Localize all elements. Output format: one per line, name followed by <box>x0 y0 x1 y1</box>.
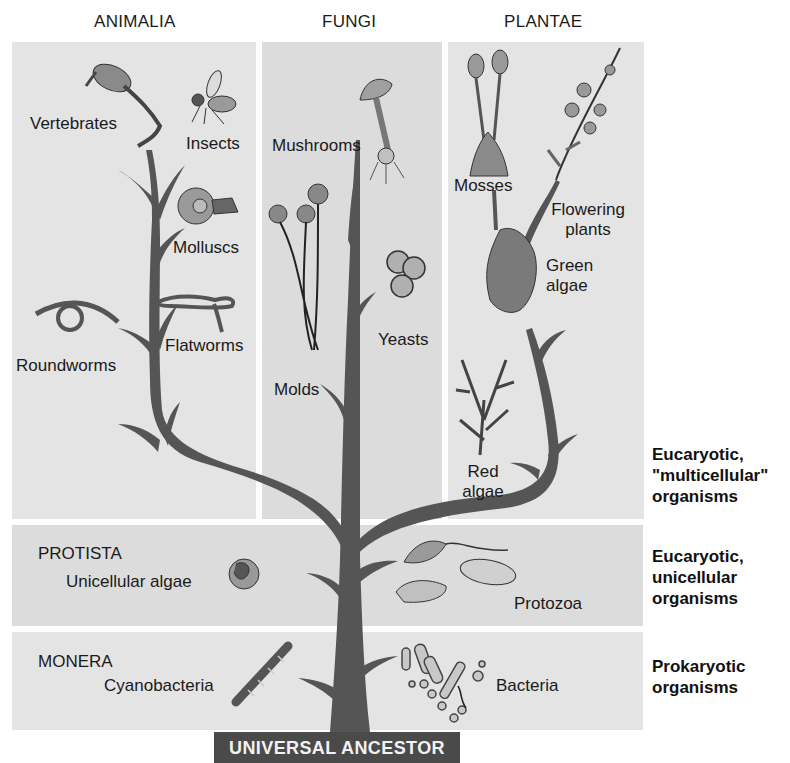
stem-mosses <box>492 190 498 230</box>
branch-plantae <box>352 328 559 556</box>
thorn <box>510 463 540 480</box>
label-insects: Insects <box>186 134 240 154</box>
label-roundworms: Roundworms <box>16 356 116 376</box>
label-red-line1: Red <box>458 462 508 482</box>
level-prokaryotic: Prokaryotic organisms <box>652 656 746 698</box>
label-green-line1: Green <box>546 256 593 276</box>
thorn <box>360 656 398 678</box>
universal-ancestor-box: UNIVERSAL ANCESTOR <box>214 732 460 763</box>
level-prokaryotic-line1: Prokaryotic <box>652 656 746 677</box>
label-flowering-line2: plants <box>548 220 628 240</box>
thorn <box>536 330 566 366</box>
bacteria-icon <box>402 643 485 722</box>
level-unicellular-line2: unicellular <box>652 567 744 588</box>
label-green-algae: Green algae <box>546 256 593 296</box>
label-mushrooms: Mushrooms <box>272 136 361 156</box>
level-multicellular-line3: organisms <box>652 486 768 507</box>
label-yeasts: Yeasts <box>378 330 428 350</box>
thorn <box>358 561 398 582</box>
label-green-line2: algae <box>546 276 593 296</box>
level-multicellular-line2: "multicellular" <box>652 465 768 486</box>
mold-icon <box>269 184 328 350</box>
kingdom-title-plantae: PLANTAE <box>504 12 582 32</box>
label-molluscs: Molluscs <box>173 238 239 258</box>
thorn <box>298 678 338 702</box>
insect-icon <box>192 69 236 124</box>
flowering-plant-icon <box>548 48 620 180</box>
red-algae-icon <box>456 360 514 455</box>
protozoa-icon <box>396 541 518 602</box>
thorn <box>118 424 160 452</box>
label-flatworms: Flatworms <box>165 336 243 356</box>
kingdom-title-protista: PROTISTA <box>38 544 122 564</box>
thorn <box>306 573 342 598</box>
mushroom-icon <box>360 79 404 184</box>
label-vertebrates: Vertebrates <box>30 114 117 134</box>
mollusc-icon <box>178 188 238 224</box>
flatworm-icon <box>158 297 234 333</box>
level-multicellular-line1: Eucaryotic, <box>652 444 768 465</box>
label-molds: Molds <box>274 380 319 400</box>
kingdom-title-animalia: ANIMALIA <box>94 12 176 32</box>
label-mosses: Mosses <box>454 176 513 196</box>
cyanobacteria-icon <box>236 646 288 702</box>
level-prokaryotic-line2: organisms <box>652 677 746 698</box>
level-multicellular: Eucaryotic, "multicellular" organisms <box>652 444 768 507</box>
label-bacteria: Bacteria <box>496 676 558 696</box>
unicellular-alga-icon <box>229 559 259 589</box>
label-cyanobacteria: Cyanobacteria <box>104 676 214 696</box>
tree-of-life-diagram <box>0 0 790 763</box>
label-flowering-line1: Flowering <box>548 200 628 220</box>
kingdom-title-fungi: FUNGI <box>322 12 376 32</box>
label-red-line2: algae <box>458 482 508 502</box>
moss-icon <box>468 50 508 176</box>
yeast-icon <box>387 251 425 297</box>
level-unicellular-line3: organisms <box>652 588 744 609</box>
thorn <box>320 384 346 420</box>
level-unicellular: Eucaryotic, unicellular organisms <box>652 546 744 609</box>
label-flowering-plants: Flowering plants <box>548 200 628 240</box>
level-unicellular-line1: Eucaryotic, <box>652 546 744 567</box>
roundworm-icon <box>36 303 118 330</box>
label-protozoa: Protozoa <box>514 594 582 614</box>
label-unicellular-algae: Unicellular algae <box>66 572 192 592</box>
kingdom-title-monera: MONERA <box>38 652 113 672</box>
label-red-algae: Red algae <box>458 462 508 502</box>
